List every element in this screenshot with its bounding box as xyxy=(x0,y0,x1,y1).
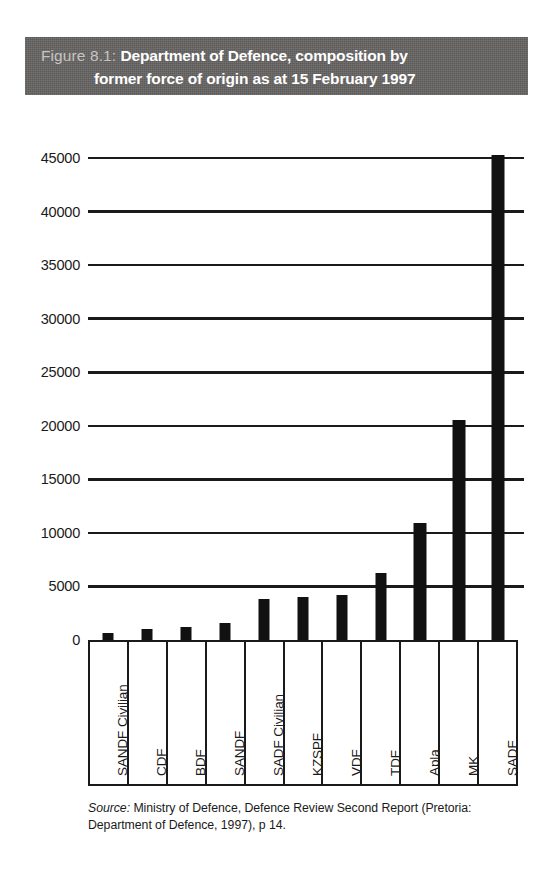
x-axis-category-cell: MK xyxy=(440,642,479,784)
x-axis-category-cell: CDF xyxy=(129,642,168,784)
x-axis-category-label: CDF xyxy=(154,749,167,776)
x-axis-category-label: KZSPF xyxy=(310,733,323,776)
x-axis-category-cell: Apla xyxy=(401,642,440,784)
x-axis-category-cell: SANDF xyxy=(207,642,246,784)
x-axis-category-label: SANDF Civilian xyxy=(115,684,128,776)
y-axis-tick-label: 40000 xyxy=(22,204,80,220)
y-axis-tick-label: 5000 xyxy=(22,578,80,594)
y-axis-tick-label: 20000 xyxy=(22,418,80,434)
x-axis-category-cell: VDF xyxy=(323,642,362,784)
x-axis-category-label: SADF xyxy=(505,740,516,776)
x-axis-category-label: VDF xyxy=(349,749,362,776)
x-axis-category-label: SADF Civilian xyxy=(271,694,284,776)
bar xyxy=(258,599,269,640)
y-axis-tick-label: 35000 xyxy=(22,257,80,273)
source-note: Source: Ministry of Defence, Defence Rev… xyxy=(88,800,528,833)
bar xyxy=(453,420,466,640)
x-axis-category-label: MK xyxy=(466,756,479,776)
y-axis-tick-labels: 0500010000150002000025000300003500040000… xyxy=(22,0,80,873)
x-axis-category-cell: SADF xyxy=(479,642,516,784)
bar xyxy=(492,155,505,640)
y-axis-tick-label: 25000 xyxy=(22,364,80,380)
y-axis-tick-label: 30000 xyxy=(22,311,80,327)
x-axis-category-label: Apla xyxy=(427,749,440,776)
x-axis-category-label: TDF xyxy=(388,750,401,776)
bar xyxy=(337,595,348,640)
x-axis-category-cell: TDF xyxy=(362,642,401,784)
bar xyxy=(376,573,387,640)
bar xyxy=(180,627,191,640)
x-axis-category-cell: SADF Civilian xyxy=(246,642,285,784)
source-text: Ministry of Defence, Defence Review Seco… xyxy=(88,801,471,832)
bar xyxy=(297,597,308,640)
x-axis-category-boxes: SANDF CivilianCDFBDFSANDFSADF CivilianKZ… xyxy=(88,640,518,786)
bar xyxy=(219,623,230,640)
x-axis-category-cell: SANDF Civilian xyxy=(90,642,129,784)
x-axis-category-label: SANDF xyxy=(232,731,245,776)
y-axis-tick-label: 15000 xyxy=(22,471,80,487)
y-axis-tick-label: 45000 xyxy=(22,150,80,166)
x-axis-category-cell: KZSPF xyxy=(285,642,324,784)
x-axis-category-label: BDF xyxy=(193,749,206,776)
y-axis-tick-label: 0 xyxy=(22,632,80,648)
bar-chart: 0500010000150002000025000300003500040000… xyxy=(0,0,553,873)
source-label: Source: xyxy=(88,801,130,815)
y-axis-tick-label: 10000 xyxy=(22,525,80,541)
x-axis-category-cell: BDF xyxy=(168,642,207,784)
bar xyxy=(102,633,113,640)
bar xyxy=(414,523,427,640)
bar xyxy=(141,629,152,640)
